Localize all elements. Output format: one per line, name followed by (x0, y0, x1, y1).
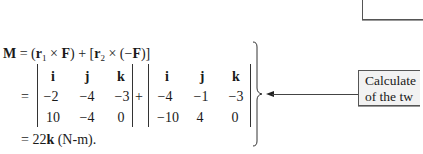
cross-operator-2: × (− (105, 46, 132, 61)
plus-bracket: ) + [ (70, 46, 94, 61)
det1-left-bar (37, 64, 38, 127)
det2-cell: −10 (157, 110, 179, 126)
result-units: (N-m). (54, 132, 96, 147)
moment-equation-line: M = (r1 × F) + [r2 × (−F)] (3, 46, 150, 66)
equals-sign: = (21, 89, 29, 105)
det1-cell: i (51, 69, 55, 85)
arrow-line (272, 94, 358, 95)
force-symbol-2: F (132, 46, 141, 61)
top-annotation-box (362, 0, 423, 20)
equals-paren: = ( (16, 46, 36, 61)
det2-cell: i (165, 69, 169, 85)
plus-sign: + (135, 89, 143, 105)
moment-symbol: M (3, 46, 16, 61)
result-prefix: = 22 (21, 132, 46, 147)
det1-cell: k (117, 69, 125, 85)
det1-cell: −2 (44, 89, 59, 105)
cross-operator-1: × (47, 46, 62, 61)
det1-cell: 0 (118, 110, 125, 126)
det2-cell: 4 (197, 110, 204, 126)
callout-line-2: of the tw (365, 89, 420, 105)
det2-left-bar (148, 64, 149, 127)
det2-cell: −4 (158, 89, 173, 105)
callout-line-1: Calculate (365, 73, 420, 89)
callout-box: Calculate of the tw (358, 70, 420, 106)
det2-cell: −3 (229, 89, 244, 105)
det1-cell: j (85, 69, 90, 85)
right-brace-icon (252, 41, 264, 147)
det1-cell: 10 (46, 110, 60, 126)
det1-cell: −4 (80, 110, 95, 126)
det2-cell: −1 (194, 89, 209, 105)
det2-right-bar (250, 64, 251, 127)
det2-cell: k (232, 69, 240, 85)
det2-cell: j (200, 69, 205, 85)
det1-cell: −3 (115, 89, 130, 105)
closing-brackets: )] (141, 46, 150, 61)
det2-cell: 0 (232, 110, 239, 126)
det1-cell: −4 (80, 89, 95, 105)
det1-right-bar (132, 64, 133, 127)
force-symbol-1: F (61, 46, 70, 61)
result-line: = 22k (N-m). (21, 132, 96, 148)
